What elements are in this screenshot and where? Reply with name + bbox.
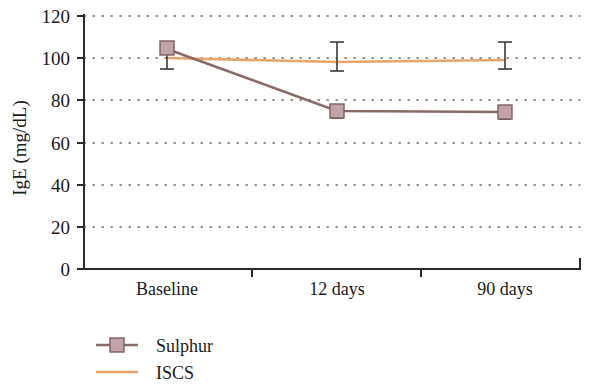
y-tick-label-120: 120	[42, 6, 71, 27]
series-sulphur-markers	[160, 41, 512, 119]
x-tick-label-baseline: Baseline	[136, 279, 198, 299]
y-axis-title: IgE (mg/dL)	[9, 100, 31, 196]
y-tick-label-0: 0	[61, 259, 71, 280]
legend-label-iscs: ISCS	[156, 363, 194, 383]
x-tick-label-12-days: 12 days	[309, 279, 365, 299]
ige-line-chart: 120 100 80 60 40 20 0 IgE (mg/dL) Baseli…	[0, 0, 591, 387]
series-sulphur	[160, 41, 512, 119]
legend-label-sulphur: Sulphur	[156, 336, 213, 356]
datapoint-sulphur-90days	[498, 105, 512, 119]
x-tick-labels: Baseline 12 days 90 days	[136, 279, 533, 299]
legend-item-sulphur[interactable]: Sulphur	[96, 336, 213, 356]
y-tick-label-20: 20	[51, 217, 70, 238]
y-tick-label-100: 100	[42, 48, 71, 69]
y-tick-label-60: 60	[51, 133, 70, 154]
y-tick-labels: 120 100 80 60 40 20 0	[42, 6, 71, 280]
y-tick-label-80: 80	[51, 90, 70, 111]
legend-item-iscs[interactable]: ISCS	[96, 363, 194, 383]
datapoint-sulphur-baseline	[160, 41, 174, 55]
datapoint-sulphur-12days	[330, 104, 344, 118]
y-tick-label-40: 40	[51, 175, 70, 196]
figure-container: 120 100 80 60 40 20 0 IgE (mg/dL) Baseli…	[0, 0, 591, 387]
chart-legend: Sulphur ISCS	[96, 336, 213, 383]
legend-marker-sulphur-square	[110, 338, 124, 352]
series-iscs-errorbars	[330, 42, 512, 71]
x-tick-label-90-days: 90 days	[477, 279, 533, 299]
